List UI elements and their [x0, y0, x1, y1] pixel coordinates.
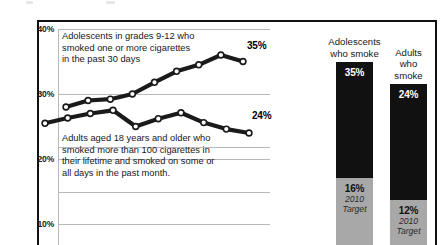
- bar-adolescents: Adolescents who smoke 35% 16% 2010 Targe…: [336, 62, 373, 245]
- gridline-10: 10%: [59, 224, 270, 225]
- bar-adolescents-title: Adolescents who smoke: [328, 36, 380, 59]
- caption-adolescents: Adolescents in grades 9-12 who smoked on…: [62, 31, 242, 66]
- panel-divider-lower: [58, 192, 270, 193]
- bar-adolescents-target-caption: 2010 Target: [336, 195, 373, 214]
- y-axis-tick-40: 40%: [38, 24, 54, 34]
- bar-adults-current-label: 24%: [390, 89, 427, 100]
- bar-adults-target-label: 12%: [390, 205, 427, 216]
- caption-adults: Adults aged 18 years and older who smoke…: [62, 133, 248, 179]
- y-axis-tick-10: 10%: [38, 219, 54, 229]
- bar-adults-target-caption: 2010 Target: [390, 217, 427, 236]
- bar-adolescents-current: 35%: [336, 62, 373, 178]
- bar-adults: Adults who smoke 24% 12% 2010 Target: [390, 84, 427, 245]
- gridline-40: 40%: [59, 29, 270, 30]
- clipped-title-fragment: [106, 1, 115, 4]
- bar-adolescents-target-label: 16%: [336, 183, 373, 194]
- bar-adolescents-target: 16% 2010 Target: [336, 178, 373, 245]
- clipped-title-fragment: [26, 1, 33, 4]
- chart-canvas: 40%30%20%10% Adolescents in grades 9-12 …: [0, 0, 441, 245]
- label-adults-value: 24%: [252, 110, 271, 121]
- y-axis-tick-30: 30%: [38, 89, 54, 99]
- bar-adults-target: 12% 2010 Target: [390, 200, 427, 245]
- bar-adults-title: Adults who smoke: [394, 47, 422, 81]
- y-axis-tick-20: 20%: [38, 154, 54, 164]
- label-adolescents-value: 35%: [247, 40, 266, 51]
- gridline-30: 30%: [59, 94, 270, 95]
- bar-adults-current: 24%: [390, 84, 427, 200]
- bar-adolescents-current-label: 35%: [336, 67, 373, 78]
